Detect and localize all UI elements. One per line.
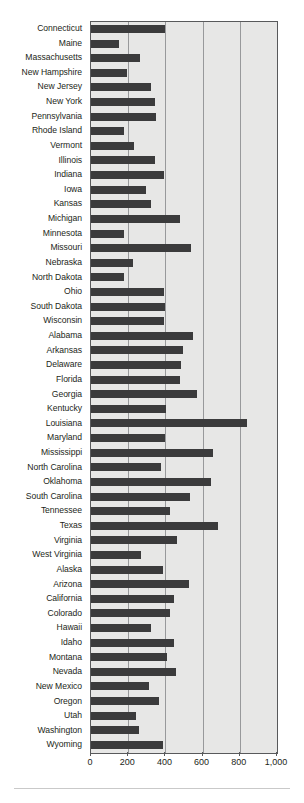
tick-label: 1,000 (265, 757, 288, 767)
category-label: Oregon (54, 694, 82, 708)
category-label: Montana (49, 650, 82, 664)
category-label: Florida (56, 372, 82, 386)
category-label: Vermont (50, 138, 82, 152)
bar-row (91, 504, 277, 519)
category-label: North Carolina (27, 460, 82, 474)
bar (91, 69, 127, 77)
category-label: Illinois (59, 153, 82, 167)
bar (91, 83, 151, 91)
bar-row (91, 22, 277, 37)
bar-row (91, 197, 277, 212)
bar (91, 332, 193, 340)
bar-row (91, 227, 277, 242)
bar (91, 317, 164, 325)
bar-row (91, 431, 277, 446)
bar (91, 551, 141, 559)
bar (91, 259, 133, 267)
bar-row (91, 563, 277, 578)
bar (91, 609, 170, 617)
bar (91, 580, 189, 588)
tick-label: 600 (194, 757, 209, 767)
category-axis-labels: ConnecticutMaineMassachusettsNew Hampshi… (0, 21, 86, 752)
bar (91, 288, 164, 296)
tick-mark-800 (239, 752, 240, 756)
bar-row (91, 650, 277, 665)
bar (91, 273, 124, 281)
category-label: Nevada (53, 664, 82, 678)
bar (91, 522, 218, 530)
category-label: New Jersey (38, 79, 82, 93)
bar-row (91, 387, 277, 402)
bar (91, 156, 155, 164)
bar-row (91, 621, 277, 636)
bar-row (91, 694, 277, 709)
category-label: Virginia (54, 533, 82, 547)
bar-row (91, 139, 277, 154)
bar (91, 98, 155, 106)
bar (91, 127, 124, 135)
bar (91, 376, 180, 384)
bar-row (91, 66, 277, 81)
bar (91, 405, 166, 413)
bar-row (91, 37, 277, 52)
bar-row (91, 709, 277, 724)
bar (91, 346, 183, 354)
category-label: Mississippi (41, 445, 82, 459)
bar-row (91, 592, 277, 607)
bar-row (91, 95, 277, 110)
category-label: Utah (64, 708, 82, 722)
bar (91, 668, 176, 676)
category-label: Idaho (61, 635, 82, 649)
bar-row (91, 665, 277, 680)
bar-row (91, 636, 277, 651)
category-label: Pennsylvania (31, 109, 82, 123)
category-label: Nebraska (46, 255, 82, 269)
bar (91, 741, 163, 749)
plot-area (90, 21, 278, 754)
bar-row (91, 285, 277, 300)
category-label: Colorado (48, 606, 82, 620)
footer-divider (14, 788, 290, 789)
bar (91, 215, 180, 223)
bar-row (91, 212, 277, 227)
tick-mark-600 (202, 752, 203, 756)
horizontal-bar-chart: ConnecticutMaineMassachusettsNew Hampshi… (0, 0, 304, 803)
bar-row (91, 738, 277, 753)
bar-row (91, 110, 277, 125)
bar (91, 230, 124, 238)
bar-row (91, 679, 277, 694)
category-label: New Hampshire (22, 65, 82, 79)
category-label: Texas (60, 518, 82, 532)
bar-row (91, 153, 277, 168)
category-label: Ohio (64, 284, 82, 298)
bars-container (91, 22, 277, 753)
bar-row (91, 490, 277, 505)
bar-row (91, 51, 277, 66)
category-label: Indiana (54, 167, 82, 181)
bar-row (91, 519, 277, 534)
bar-row (91, 373, 277, 388)
bar-row (91, 183, 277, 198)
tick-label: 200 (120, 757, 135, 767)
category-label: New Mexico (36, 679, 82, 693)
category-label: Wisconsin (43, 313, 82, 327)
value-axis: 02004006008001,000 (90, 752, 276, 782)
bar (91, 113, 156, 121)
bar (91, 390, 197, 398)
category-label: Maryland (47, 430, 82, 444)
category-label: Massachusetts (25, 50, 82, 64)
category-label: South Dakota (31, 299, 82, 313)
bar-row (91, 446, 277, 461)
bar-row (91, 343, 277, 358)
bar-row (91, 241, 277, 256)
bar (91, 419, 247, 427)
bar (91, 200, 151, 208)
bar (91, 303, 165, 311)
bar (91, 712, 136, 720)
bar-row (91, 270, 277, 285)
bar (91, 25, 165, 33)
bar (91, 40, 119, 48)
tick-mark-1000 (276, 752, 277, 756)
bar-row (91, 80, 277, 95)
bar-row (91, 256, 277, 271)
